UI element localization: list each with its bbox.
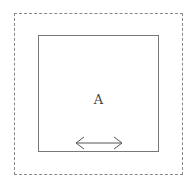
box-label: A [39, 92, 158, 107]
horizontal-double-arrow-icon [75, 136, 123, 150]
box-a: A [38, 35, 159, 152]
